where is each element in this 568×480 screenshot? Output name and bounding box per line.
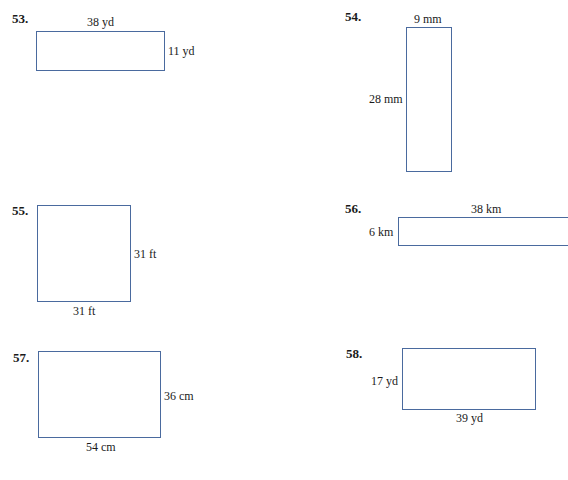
rectangle-figure [406, 27, 452, 172]
problem-number: 57. [13, 351, 29, 365]
rectangle-figure [398, 217, 568, 246]
right-dimension-label: 36 cm [164, 389, 194, 403]
top-dimension-label: 38 yd [87, 15, 114, 29]
rectangle-figure [37, 205, 131, 302]
rectangle-figure [36, 31, 165, 71]
right-dimension-label: 31 ft [134, 247, 156, 261]
top-dimension-label: 9 mm [414, 12, 442, 26]
right-dimension-label: 11 yd [168, 44, 195, 58]
rectangle-figure [38, 351, 161, 438]
left-dimension-label: 17 yd [371, 374, 398, 388]
bottom-dimension-label: 39 yd [456, 411, 483, 425]
problem-number: 53. [12, 12, 28, 26]
bottom-dimension-label: 31 ft [73, 304, 95, 318]
left-dimension-label: 6 km [369, 225, 393, 239]
rectangle-figure [402, 348, 536, 410]
bottom-dimension-label: 54 cm [86, 440, 116, 454]
problem-number: 54. [345, 10, 361, 24]
top-dimension-label: 38 km [471, 202, 501, 216]
left-dimension-label: 28 mm [369, 92, 403, 106]
problem-number: 55. [12, 204, 28, 218]
problem-number: 58. [346, 347, 362, 361]
problem-number: 56. [345, 202, 361, 216]
